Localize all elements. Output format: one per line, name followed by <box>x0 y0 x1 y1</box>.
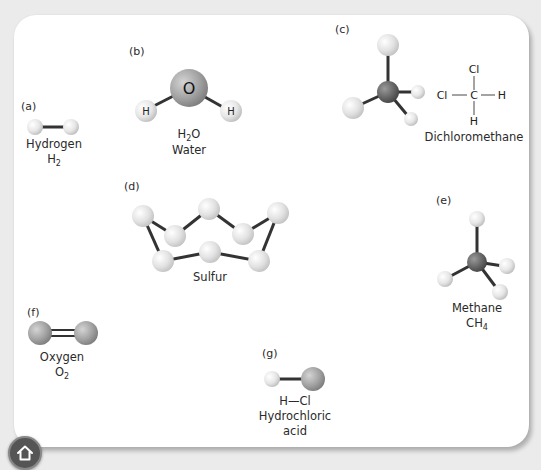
caption-water: H2O Water <box>149 127 229 158</box>
methane-formula: CH4 <box>437 316 517 332</box>
home-button[interactable] <box>8 436 42 470</box>
caption-sulfur: Sulfur <box>180 270 240 285</box>
oxygen-molecule <box>28 321 98 345</box>
sulfur-atoms <box>132 198 289 272</box>
methane-name: Methane <box>437 301 517 316</box>
hcl-name-line2: acid <box>250 424 340 439</box>
label-a: (a) <box>21 100 36 113</box>
methane-molecule <box>437 211 515 300</box>
water-formula: H2O <box>149 127 229 143</box>
water-molecule: O H H <box>135 69 242 122</box>
water-atom-o: O <box>183 79 196 98</box>
oxygen-name: Oxygen <box>22 350 102 365</box>
struct-bottom: H <box>470 115 478 128</box>
home-icon <box>16 444 34 462</box>
caption-hydrogen: Hydrogen H2 <box>14 137 94 168</box>
label-g: (g) <box>262 347 278 360</box>
water-name: Water <box>149 143 229 158</box>
struct-center: C <box>470 89 478 102</box>
caption-dichloromethane: Dichloromethane <box>424 130 524 145</box>
struct-top: Cl <box>469 63 480 76</box>
struct-left: Cl <box>437 89 448 102</box>
label-e: (e) <box>436 194 451 207</box>
hydrogen-formula: H2 <box>14 152 94 168</box>
hydrochloric-acid-molecule <box>264 367 325 391</box>
hydrogen-molecule <box>27 119 79 135</box>
hydrogen-name: Hydrogen <box>14 137 94 152</box>
struct-right: H <box>498 89 506 102</box>
hcl-formula: H—Cl <box>250 394 340 409</box>
label-b: (b) <box>129 45 145 58</box>
label-f: (f) <box>27 306 39 319</box>
label-d: (d) <box>124 180 140 193</box>
water-atom-h-right: H <box>227 106 235 117</box>
caption-methane: Methane CH4 <box>437 301 517 332</box>
label-c: (c) <box>335 23 350 36</box>
hcl-name-line1: Hydrochloric <box>250 409 340 424</box>
oxygen-formula: O2 <box>22 365 102 381</box>
caption-oxygen: Oxygen O2 <box>22 350 102 381</box>
dichloromethane-molecule <box>342 34 425 126</box>
caption-hydrochloric-acid: H—Cl Hydrochloric acid <box>250 394 340 439</box>
water-atom-h-left: H <box>142 106 150 117</box>
